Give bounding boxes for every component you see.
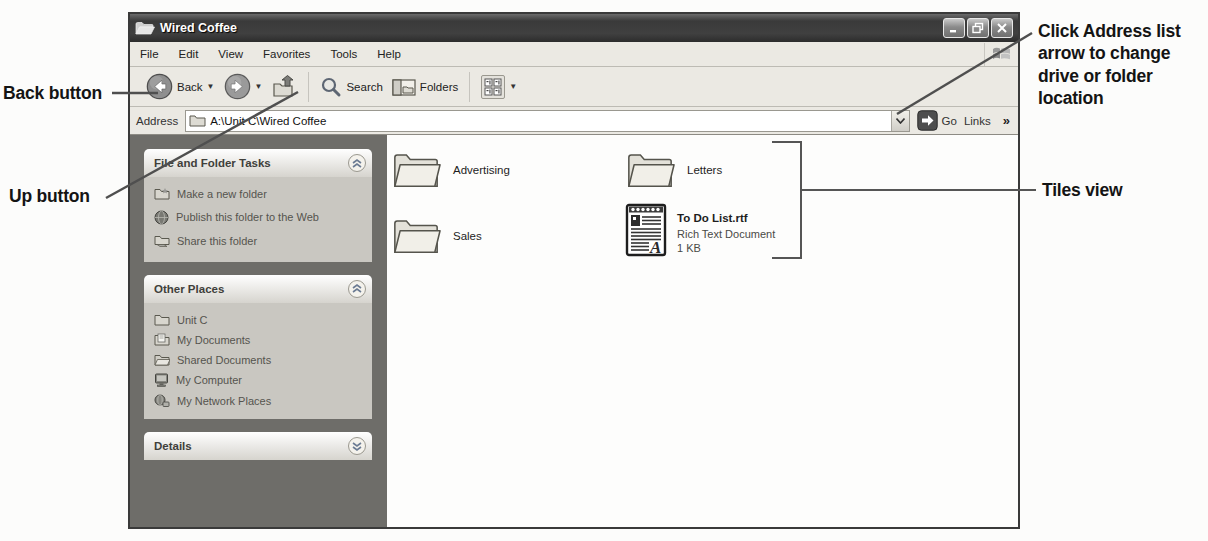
restore-icon	[972, 22, 984, 34]
links-label: Links	[964, 115, 991, 127]
back-button[interactable]: Back ▼	[143, 71, 218, 102]
file-details: To Do List.rtf Rich Text Document 1 KB	[677, 201, 775, 256]
file-tile-letters[interactable]: Letters	[625, 149, 722, 191]
task-make-new-folder[interactable]: Make a new folder	[154, 187, 364, 201]
place-my-documents[interactable]: My Documents	[154, 333, 364, 347]
file-list-tiles: Advertising Letters Sales	[387, 135, 1018, 527]
file-tile-to-do-list[interactable]: A To Do List.rtf Rich Text Document 1 KB	[625, 201, 775, 257]
views-icon	[481, 75, 505, 99]
restore-button[interactable]	[967, 18, 989, 38]
links-toolbar[interactable]: Links »	[964, 113, 1010, 128]
window-title: Wired Coffee	[160, 21, 943, 35]
task-share-this-folder[interactable]: Share this folder	[154, 234, 364, 248]
folders-button[interactable]: Folders	[389, 75, 461, 99]
place-label: My Documents	[177, 333, 250, 347]
place-my-computer[interactable]: My Computer	[154, 373, 364, 387]
new-folder-icon	[154, 187, 170, 200]
back-dropdown-icon[interactable]: ▼	[207, 82, 215, 91]
file-name: Sales	[453, 230, 482, 242]
menu-bar: File Edit View Favorites Tools Help	[130, 42, 1018, 67]
go-button[interactable]: Go	[917, 110, 957, 131]
panel-title: File and Folder Tasks	[154, 157, 271, 169]
explorer-window: Wired Coffee File Edit View	[128, 12, 1020, 529]
go-arrow-icon	[917, 110, 938, 131]
chevron-up-icon[interactable]	[348, 280, 366, 298]
forward-arrow-icon	[224, 73, 251, 100]
address-value: A:\Unit C\Wired Coffee	[210, 115, 890, 127]
chevron-down-icon[interactable]	[348, 437, 366, 455]
address-dropdown-arrow[interactable]	[891, 111, 909, 131]
folder-icon	[391, 215, 441, 257]
rtf-document-icon: A	[625, 201, 667, 257]
place-label: My Computer	[176, 373, 242, 387]
place-unit-c[interactable]: Unit C	[154, 313, 364, 327]
folder-icon	[189, 114, 206, 127]
network-places-icon	[154, 394, 170, 408]
menu-view[interactable]: View	[208, 48, 253, 60]
annotation-tiles-view: Tiles view	[1042, 179, 1162, 201]
panel-details: Details	[144, 432, 372, 460]
menu-file[interactable]: File	[130, 48, 169, 60]
place-label: My Network Places	[177, 394, 271, 408]
toolbar-separator	[469, 72, 470, 102]
folders-icon	[392, 77, 416, 97]
panel-other-places: Other Places Unit C	[144, 275, 372, 419]
go-label: Go	[942, 115, 957, 127]
panel-header-file-and-folder-tasks[interactable]: File and Folder Tasks	[144, 149, 372, 177]
share-folder-icon	[154, 234, 170, 247]
file-tile-advertising[interactable]: Advertising	[391, 149, 510, 191]
window-body: File and Folder Tasks Make a new folder	[130, 135, 1018, 527]
menu-tools[interactable]: Tools	[320, 48, 367, 60]
annotation-up-button: Up button	[9, 185, 119, 207]
panel-body: Unit C My Documents	[144, 303, 372, 419]
task-pane: File and Folder Tasks Make a new folder	[130, 135, 387, 527]
menu-edit[interactable]: Edit	[169, 48, 209, 60]
panel-title: Other Places	[154, 283, 224, 295]
file-name: To Do List.rtf	[677, 211, 775, 227]
toolbar-overflow-chevron[interactable]: »	[1003, 113, 1010, 128]
views-button[interactable]: ▼	[478, 73, 520, 101]
folder-icon	[625, 149, 675, 191]
shared-documents-icon	[154, 353, 170, 366]
close-button[interactable]	[991, 18, 1013, 38]
search-label: Search	[346, 81, 382, 93]
windows-logo-icon	[984, 43, 1018, 66]
up-folder-icon	[271, 74, 297, 100]
back-arrow-icon	[146, 73, 173, 100]
up-button[interactable]	[268, 72, 300, 102]
task-label: Share this folder	[177, 234, 257, 248]
panel-header-details[interactable]: Details	[144, 432, 372, 460]
file-name: Advertising	[453, 164, 510, 176]
address-bar: Address A:\Unit C\Wired Coffee Go Links	[130, 107, 1018, 135]
menu-favorites[interactable]: Favorites	[253, 48, 320, 60]
panel-header-other-places[interactable]: Other Places	[144, 275, 372, 303]
forward-button[interactable]: ▼	[221, 71, 266, 102]
folders-label: Folders	[420, 81, 458, 93]
place-label: Shared Documents	[177, 353, 271, 367]
place-shared-documents[interactable]: Shared Documents	[154, 353, 364, 367]
place-my-network-places[interactable]: My Network Places	[154, 394, 364, 408]
menu-help[interactable]: Help	[367, 48, 411, 60]
file-type: Rich Text Document	[677, 227, 775, 242]
task-publish-folder-to-web[interactable]: Publish this folder to the Web	[154, 210, 364, 225]
forward-dropdown-icon[interactable]: ▼	[255, 82, 263, 91]
file-tile-sales[interactable]: Sales	[391, 215, 482, 257]
annotation-back-button: Back button	[3, 82, 118, 104]
place-label: Unit C	[177, 313, 208, 327]
svg-text:A: A	[649, 238, 661, 257]
panel-body: Make a new folder Publish this folder to…	[144, 177, 372, 262]
search-button[interactable]: Search	[317, 74, 385, 100]
file-size: 1 KB	[677, 241, 775, 256]
minimize-button[interactable]	[943, 18, 965, 38]
views-dropdown-icon[interactable]: ▼	[509, 82, 517, 91]
toolbar: Back ▼ ▼	[130, 67, 1018, 107]
publish-web-icon	[154, 210, 169, 225]
address-input[interactable]: A:\Unit C\Wired Coffee	[185, 110, 909, 132]
chevron-up-icon[interactable]	[348, 154, 366, 172]
minimize-icon	[948, 22, 960, 34]
open-folder-icon	[135, 20, 155, 36]
folder-icon	[154, 313, 170, 326]
task-label: Publish this folder to the Web	[176, 210, 319, 224]
title-bar[interactable]: Wired Coffee	[130, 14, 1018, 42]
chevron-down-icon	[896, 118, 905, 124]
